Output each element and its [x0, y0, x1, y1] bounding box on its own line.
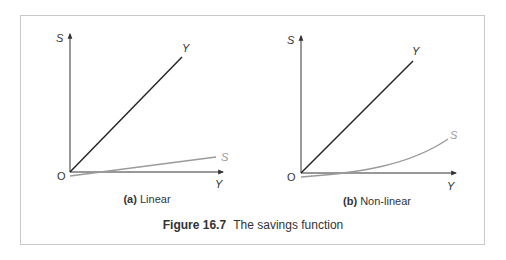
- panel-a-caption: (a) Linear: [123, 193, 170, 205]
- panel-b-savings-label: S: [450, 129, 458, 141]
- panel-a-tag: (a): [123, 193, 136, 205]
- panel-a-45-degree-line: [70, 57, 182, 172]
- panel-b-45-line-label: Y: [412, 45, 420, 57]
- panel-a-linear: S Y O Y S: [56, 32, 229, 190]
- panel-b-savings-curve: [301, 139, 448, 177]
- panel-b-non-linear: S Y O Y S: [287, 34, 458, 192]
- panel-b-tag: (b): [343, 195, 357, 207]
- figure-title: The savings function: [233, 218, 343, 232]
- panel-b-45-degree-line: [301, 61, 413, 173]
- figure-caption: Figure 16.7 The savings function: [163, 218, 344, 232]
- panel-a-45-line-label: Y: [182, 42, 190, 54]
- figure-number: Figure 16.7: [163, 218, 226, 232]
- panel-b-y-axis-label: S: [287, 34, 295, 46]
- panel-a-y-axis-label: S: [56, 32, 64, 44]
- panel-a-x-axis-label: Y: [215, 178, 223, 190]
- panel-b-origin-label: O: [287, 171, 296, 183]
- panel-a-origin-label: O: [57, 170, 66, 182]
- panel-a-savings-label: S: [221, 151, 229, 163]
- panel-a-savings-line: [70, 157, 216, 176]
- panel-a-label: Linear: [140, 193, 171, 205]
- panel-b-caption: (b) Non-linear: [343, 195, 411, 207]
- panel-b-x-axis-label: Y: [447, 180, 455, 192]
- panel-b-label: Non-linear: [360, 195, 411, 207]
